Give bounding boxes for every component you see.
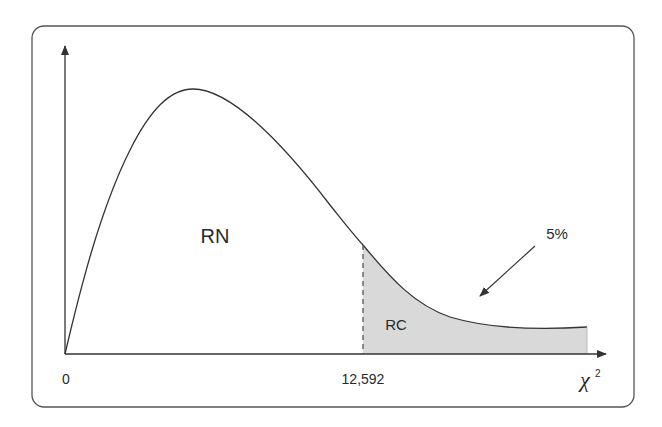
density-curve <box>65 89 587 354</box>
alpha-arrow <box>480 246 535 296</box>
x-axis-label: χ <box>578 367 591 392</box>
critical-region-fill <box>363 245 587 354</box>
origin-label: 0 <box>62 371 70 387</box>
x-axis-exponent: 2 <box>595 368 601 379</box>
critical-value-label: 12,592 <box>342 371 385 387</box>
rc-label: RC <box>385 316 407 333</box>
chi-square-chart: 0 12,592 RN RC 5% χ 2 <box>0 0 662 427</box>
rn-label: RN <box>201 225 230 247</box>
alpha-label: 5% <box>546 225 568 242</box>
